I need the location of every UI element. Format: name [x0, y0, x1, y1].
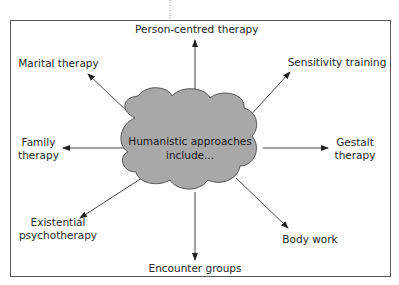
node-body-work: Body work [275, 233, 345, 246]
node-marital: Marital therapy [16, 57, 101, 70]
center-label-line2: include... [125, 148, 255, 162]
node-encounter: Encounter groups [140, 262, 250, 275]
center-label: Humanistic approaches include... [125, 134, 255, 162]
center-label-line1: Humanistic approaches [125, 134, 255, 148]
node-person-centred: Person-centred therapy [135, 23, 255, 36]
node-existential-line2: psychotherapy [18, 229, 98, 242]
node-family-line2: therapy [16, 149, 61, 162]
node-family: Family therapy [16, 136, 61, 162]
node-sensitivity: Sensitivity training [282, 56, 392, 69]
node-gestalt-line2: therapy [330, 149, 380, 162]
node-existential-line1: Existential [18, 216, 98, 229]
node-gestalt-line1: Gestalt [330, 136, 380, 149]
node-family-line1: Family [16, 136, 61, 149]
node-gestalt: Gestalt therapy [330, 136, 380, 162]
node-existential: Existential psychotherapy [18, 216, 98, 242]
